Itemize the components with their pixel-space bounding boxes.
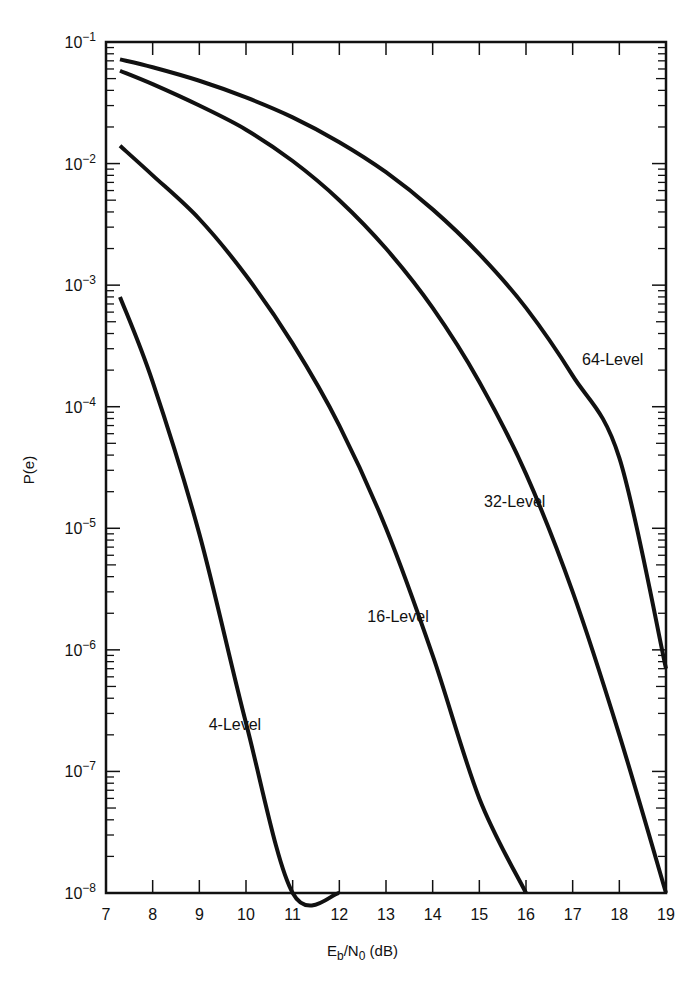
- x-axis-title: Eb/N0 (dB): [327, 942, 398, 963]
- y-axis-title: P(e): [20, 456, 37, 484]
- x-tick-label: 10: [237, 906, 255, 923]
- ber-chart: 78910111213141516171819 10−110−210−310−4…: [0, 0, 685, 983]
- y-tick-label: 10−2: [65, 152, 97, 173]
- y-tick-label: 10−4: [65, 395, 97, 416]
- x-tick-label: 14: [424, 906, 442, 923]
- curve-label: 16-Level: [367, 608, 428, 625]
- curve-16-level: [120, 146, 526, 893]
- y-tick-label: 10−8: [65, 881, 97, 902]
- curve-4-level: [120, 297, 339, 906]
- y-tick-label: 10−6: [65, 638, 97, 659]
- y-tick-label: 10−1: [65, 30, 97, 51]
- x-tick-label: 16: [517, 906, 535, 923]
- x-tick-label: 17: [564, 906, 582, 923]
- x-tick-label: 12: [330, 906, 348, 923]
- x-tick-label: 9: [195, 906, 204, 923]
- curve-label: 64-Level: [582, 351, 643, 368]
- curve-labels: 4-Level16-Level32-Level64-Level: [209, 351, 644, 733]
- y-tick-label: 10−3: [65, 273, 97, 294]
- plot-frame: [106, 42, 666, 893]
- curve-label: 4-Level: [209, 716, 261, 733]
- curves: [120, 59, 666, 905]
- y-tick-label: 10−7: [65, 759, 97, 780]
- x-tick-label: 13: [377, 906, 395, 923]
- x-tick-label: 19: [657, 906, 675, 923]
- x-tick-label: 7: [102, 906, 111, 923]
- x-tick-label: 15: [470, 906, 488, 923]
- curve-label: 32-Level: [484, 493, 545, 510]
- y-axis-ticks: 10−110−210−310−410−510−610−710−8: [65, 30, 666, 902]
- curve-32-level: [120, 71, 666, 893]
- x-tick-label: 18: [610, 906, 628, 923]
- x-tick-label: 8: [148, 906, 157, 923]
- y-tick-label: 10−5: [65, 516, 97, 537]
- x-tick-label: 11: [284, 906, 301, 923]
